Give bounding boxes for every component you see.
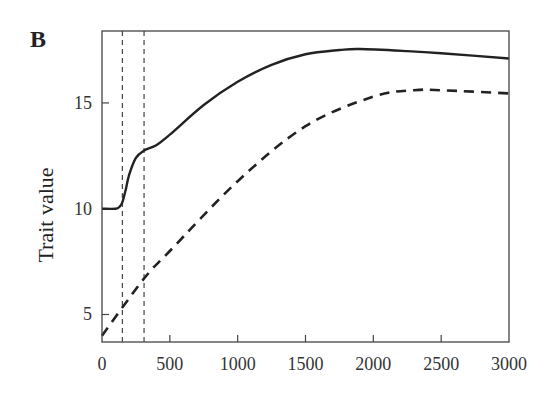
plot-frame <box>102 31 509 342</box>
x-tick-label: 2500 <box>423 354 459 374</box>
y-tick-label: 15 <box>74 93 92 113</box>
x-tick-label: 2000 <box>355 354 391 374</box>
x-tick-label: 500 <box>156 354 183 374</box>
y-tick-label: 5 <box>83 304 92 324</box>
x-tick-label: 0 <box>98 354 107 374</box>
series-lines <box>102 49 509 336</box>
y-tick-label: 10 <box>74 199 92 219</box>
line-chart: 05001000150020002500300051015 <box>0 0 555 398</box>
x-tick-label: 3000 <box>491 354 527 374</box>
x-tick-label: 1000 <box>220 354 256 374</box>
dashed-series-line <box>102 90 509 336</box>
solid-series-line <box>102 49 509 209</box>
x-tick-label: 1500 <box>288 354 324 374</box>
axis-ticks: 05001000150020002500300051015 <box>74 93 527 374</box>
